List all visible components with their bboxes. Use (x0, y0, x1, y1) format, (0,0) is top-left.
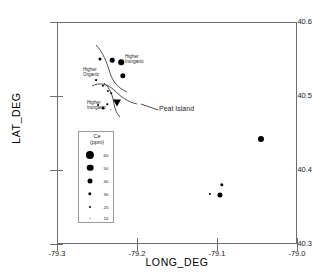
legend-title-units: (ppm) (90, 139, 104, 145)
legend-row: 50 (79, 161, 115, 174)
legend-value: 30 (99, 191, 113, 196)
legend-row: 40 (79, 174, 115, 187)
boundary-curves (0, 0, 312, 277)
annotation-higher-inorganic-top: Higher Inorganic (125, 54, 144, 64)
legend-value: 20 (99, 204, 113, 209)
size-legend: Ce(ppm) 60 50 40 30 20 10 (78, 131, 114, 223)
legend-row: 60 (79, 148, 115, 161)
legend-value: 60 (99, 152, 113, 157)
legend-marker (88, 178, 93, 183)
legend-row: 30 (79, 187, 115, 200)
legend-value: 50 (99, 165, 113, 170)
legend-row: 10 (79, 211, 115, 224)
scatter-plot-figure: 40.6 40.5 40.4 40.3 -79.3 -79.2 -79.1 -7… (0, 0, 312, 277)
legend-title-element: Ce (94, 133, 101, 139)
legend-value: 40 (99, 178, 113, 183)
legend-marker (86, 150, 94, 158)
annotation-higher-inorganic-bottom: Higher Inorganic (87, 100, 106, 110)
legend-marker (89, 206, 91, 208)
legend-marker (87, 164, 94, 171)
legend-title: Ce(ppm) (79, 133, 115, 146)
legend-value: 10 (99, 215, 113, 220)
legend-marker (89, 217, 90, 218)
annotation-higher-organic: Higher Organic (83, 67, 99, 77)
legend-marker (88, 192, 91, 195)
annotation-peat-island: Peat Island (159, 105, 194, 113)
